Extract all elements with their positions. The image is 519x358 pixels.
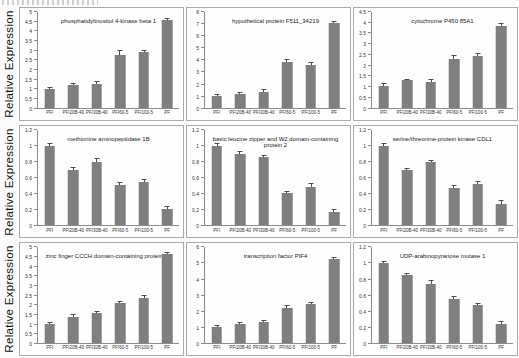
bar [496,26,507,108]
bar [449,188,460,225]
y-tick-label: 1 [196,143,199,148]
x-tick-label: PFI100-5 [132,229,156,234]
y-tick-label: 3 [196,293,199,298]
y-axis: 0123456 [189,247,204,344]
bar [68,85,79,108]
y-tick-label: 0.4 [359,192,366,197]
y-tick-label: 4.5 [359,10,366,15]
plot-area: methionine aminopeptidase 1B [37,130,179,227]
bar [211,327,222,343]
y-tick-label: 4.5 [25,19,32,24]
chart-title: transcription factor PIF4 [205,253,346,260]
error-bar [214,143,219,146]
bar [329,259,340,344]
bar [258,322,269,343]
chart-title: cytochrome P450 85A1 [372,18,513,25]
error-bar [499,321,504,324]
error-bar [285,305,290,308]
bar [472,305,483,343]
x-tick-label: PFI60-5 [109,229,133,234]
x-tick-label: PFI [372,346,396,351]
bar [282,308,293,343]
y-tick-label: 0.6 [25,176,32,181]
y-axis-title: Relative Expression [0,7,17,121]
y-tick-label: 0.2 [25,208,32,213]
y-tick-label: 3 [29,284,32,289]
y-tick-label: 3 [29,48,32,53]
y-tick-label: 6 [196,245,199,250]
y-tick-label: 1 [363,85,366,90]
bar [91,313,102,343]
y-tick-label: 0.8 [192,159,199,164]
error-bar [405,168,410,171]
y-axis: 00.511.522.533.544.5 [356,12,371,109]
bar [211,96,222,108]
bar [329,23,340,108]
error-bar [308,183,313,187]
bar [449,299,460,343]
y-tick-label: 2 [29,68,32,73]
error-bar [214,325,219,327]
y-tick-label: 1.5 [25,77,32,82]
x-tick-label: PFI30B-40 [419,111,443,116]
error-bar [381,261,386,264]
error-bar [499,200,504,204]
bar [235,324,246,343]
x-tick-label: PFI100-5 [299,346,323,351]
y-tick-label: 0 [196,224,199,229]
plot-area: hypothetical protein F511_34219 [204,12,346,109]
x-tick-label: PFI60-5 [276,229,300,234]
x-tick-label: PFI100-5 [299,229,323,234]
bar [425,82,436,108]
y-tick-label: 3.5 [25,274,32,279]
error-bar [214,94,219,96]
error-bar [475,303,480,305]
bar [402,80,413,107]
y-tick-label: 4 [363,20,366,25]
error-bar [141,50,146,52]
x-tick-label: PFI20B-40 [396,229,420,234]
bar [449,59,460,107]
y-axis: 00.511.522.533.544.55 [22,247,37,344]
bar [235,154,246,226]
error-bar [405,79,410,81]
chart-panel: 00.20.40.60.811.2 basic leucine zipper a… [186,125,351,239]
chart-panel: 00.511.522.533.544.55 zinc finger CCCH d… [19,242,184,356]
y-tick-label: 2 [363,63,366,68]
error-bar [332,21,337,23]
error-bar [238,92,243,94]
chart-title: zinc finger CCCH domain-containing prote… [38,253,179,260]
error-bar [238,322,243,324]
x-tick-label: PFI30B-40 [252,346,276,351]
x-tick-label: PFI20B-40 [229,111,253,116]
bar [138,182,149,226]
y-tick-label: 4 [196,58,199,63]
error-bar [47,322,52,324]
x-tick-label: PFI [205,229,229,234]
y-tick-label: 4 [29,264,32,269]
y-tick-label: 1 [29,87,32,92]
bar [496,204,507,226]
y-axis: 00.511.522.533.544.55 [22,12,37,109]
error-bar [118,182,123,185]
x-tick-label: PFI100-5 [299,111,323,116]
bar [115,185,126,225]
figure-grid: Relative Expression 00.511.522.533.544.5… [0,7,518,356]
y-tick-label: 1.2 [359,245,366,250]
x-tick-label: PF [490,229,514,234]
error-bar [71,167,76,170]
x-axis: PFIPFI20B-40PFI30B-40PFI60-5PFI100-5PF [189,109,346,118]
plot-area: serine/threonine-protein kinase CDL1 [371,130,513,227]
bar [91,162,102,226]
x-tick-label: PF [156,111,180,116]
error-bar [428,160,433,163]
x-tick-label: PFI60-5 [443,346,467,351]
error-bar [165,206,170,209]
bar [258,157,269,226]
error-bar [141,179,146,182]
cropped-text-fragment [2,0,98,5]
error-bar [285,59,290,62]
y-tick-label: 0.5 [25,332,32,337]
y-axis-title: Relative Expression [0,242,17,356]
bar [402,275,413,343]
